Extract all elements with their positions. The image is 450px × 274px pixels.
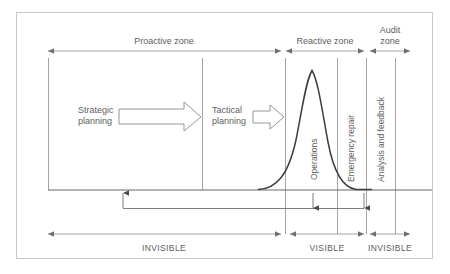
strategic-planning-block-arrow (119, 102, 201, 131)
zone-dividers (49, 58, 396, 234)
zone-label-audit-line1: Audit (380, 25, 401, 35)
vertical-label-emergency-repair: Emergency repair (346, 115, 356, 182)
zone-labels: Proactive zone Reactive zone Audit zone (134, 25, 401, 46)
maintenance-zones-diagram: Proactive zone Reactive zone Audit zone (0, 0, 450, 274)
phase-label-tactical-line2: planning (212, 116, 246, 126)
zone-label-proactive: Proactive zone (134, 36, 194, 46)
visibility-label-visible: VISIBLE (310, 243, 345, 253)
diagram-canvas: Proactive zone Reactive zone Audit zone (0, 0, 450, 274)
phase-label-tactical-line1: Tactical (212, 105, 242, 115)
figure-frame (17, 13, 433, 259)
phase-label-strategic-line1: Strategic (78, 105, 114, 115)
feedback-loop (123, 193, 364, 209)
vertical-phase-labels: Operations Emergency repair Analysis and… (309, 96, 386, 182)
phase-arrows (119, 102, 284, 131)
visibility-labels: INVISIBLE VISIBLE INVISIBLE (142, 243, 412, 253)
zone-label-audit-line2: zone (380, 36, 400, 46)
tactical-planning-block-arrow (253, 105, 284, 129)
failure-curve-group (48, 71, 432, 191)
vertical-label-analysis-and-feedback: Analysis and feedback (376, 96, 386, 182)
visibility-label-invisible-left: INVISIBLE (142, 243, 186, 253)
phase-label-strategic-line2: planning (78, 116, 112, 126)
vertical-label-operations: Operations (309, 138, 319, 180)
visibility-label-invisible-right: INVISIBLE (368, 243, 412, 253)
zone-label-reactive: Reactive zone (296, 36, 353, 46)
